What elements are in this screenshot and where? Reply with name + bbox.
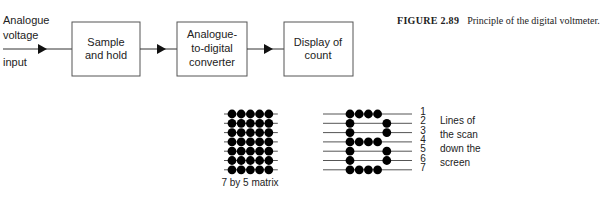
matrix-dot [228,138,237,147]
matrix-dot-lit [346,110,355,119]
matrix-dot [264,165,273,174]
matrix-dot-lit [346,147,355,156]
matrix-dot [246,147,255,156]
scan-note-line-1: Lines of [440,115,475,126]
adc-label-3: converter [189,56,235,68]
matrix-dot [264,119,273,128]
matrix-dot [255,138,264,147]
matrix-dot [255,147,264,156]
scan-note-line-4: screen [440,157,470,168]
matrix-dot [255,128,264,137]
matrix-caption: 7 by 5 matrix [221,177,278,188]
matrix-dot-lit [373,165,382,174]
matrix-dot [228,110,237,119]
full-dot-matrix [224,110,278,175]
matrix-dot-lit [382,128,391,137]
arrow-icon [264,44,273,54]
matrix-dot-lit [346,138,355,147]
matrix-dot [228,128,237,137]
matrix-dot-lit [382,119,391,128]
matrix-dot [255,156,264,165]
matrix-dot [237,128,246,137]
matrix-dot [255,165,264,174]
input-label-line-2: voltage [3,29,38,41]
matrix-dot-lit [346,128,355,137]
matrix-dot-lit [364,138,373,147]
matrix-dot [228,147,237,156]
figure-title: Principle of the digital voltmeter. [467,15,599,26]
matrix-dot [228,165,237,174]
matrix-dot [237,156,246,165]
matrix-dot [255,119,264,128]
scan-line-numbers: 1234567 [420,106,426,173]
matrix-dot [237,165,246,174]
matrix-dot [246,110,255,119]
matrix-dot [246,156,255,165]
letter-b-dot-matrix [323,110,412,175]
matrix-dot-lit [355,138,364,147]
matrix-dot [246,165,255,174]
sample-and-hold-label-1: Sample [87,36,124,48]
matrix-dot [264,147,273,156]
matrix-dot [237,110,246,119]
matrix-dot-lit [364,165,373,174]
matrix-dot [228,156,237,165]
figure-caption: FIGURE 2.89Principle of the digital volt… [397,15,600,26]
arrow-icon [157,44,166,54]
display-label-2: count [305,49,332,61]
matrix-dot-lit [382,147,391,156]
matrix-dot [246,138,255,147]
matrix-dot [237,147,246,156]
display-label-1: Display of [294,36,343,48]
matrix-dot [264,110,273,119]
arrow-icon [38,44,47,54]
matrix-dot [264,138,273,147]
scan-line-number: 7 [420,162,426,173]
adc-label-1: Analogue- [187,28,237,40]
matrix-dot-lit [355,165,364,174]
matrix-dot [264,156,273,165]
figure-number: FIGURE 2.89 [397,15,459,26]
matrix-dot-lit [355,110,364,119]
digital-voltmeter-figure: Analogue voltage input Sample and hold A… [0,0,615,203]
matrix-dot-lit [346,165,355,174]
matrix-dot-lit [364,110,373,119]
matrix-dot [255,110,264,119]
scan-note-line-2: the scan [440,129,478,140]
matrix-dot-lit [346,119,355,128]
input-label-line-3: input [3,56,27,68]
matrix-dot [264,128,273,137]
matrix-dot-lit [382,156,391,165]
matrix-dot [246,128,255,137]
matrix-dot [246,119,255,128]
matrix-dot-lit [373,110,382,119]
adc-label-2: to-digital [191,42,233,54]
input-label-line-1: Analogue [3,14,50,26]
matrix-dot [228,119,237,128]
scan-note-line-3: down the [440,143,481,154]
matrix-dot [237,119,246,128]
matrix-dot [237,138,246,147]
sample-and-hold-label-2: and hold [85,49,127,61]
matrix-dot-lit [373,138,382,147]
matrix-dot-lit [346,156,355,165]
